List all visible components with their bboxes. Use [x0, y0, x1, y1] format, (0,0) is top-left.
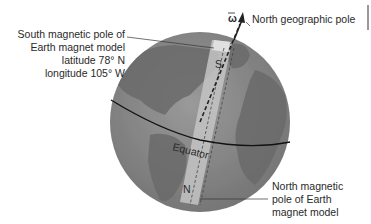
label-north-magnetic-pole: North magnetic pole of Earth magnet mode… [272, 180, 343, 218]
leader-north-geo [246, 22, 250, 26]
label-south-magnetic-pole: South magnetic pole of Earth magnet mode… [18, 28, 125, 79]
svg-text:latitude 78° N: latitude 78° N [62, 54, 125, 66]
svg-text:pole of Earth: pole of Earth [272, 193, 332, 205]
svg-text:North magnetic: North magnetic [272, 180, 343, 192]
svg-text:magnet model: magnet model [272, 206, 339, 218]
earth-magnet-diagram: S N ω Equator South magnetic pole of Ear… [0, 0, 371, 224]
magnet-n-label: N [183, 183, 191, 195]
svg-text:Earth magnet model: Earth magnet model [30, 41, 125, 53]
magnet-s-label: S [215, 58, 222, 70]
svg-text:South magnetic pole of: South magnetic pole of [18, 28, 125, 40]
label-north-geographic-pole: North geographic pole [252, 13, 355, 25]
omega-label: ω [228, 12, 237, 24]
arrow-head-icon [238, 12, 245, 23]
svg-text:longitude 105° W: longitude 105° W [45, 67, 125, 79]
